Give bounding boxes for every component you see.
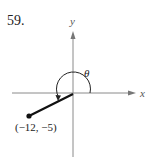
x-axis (12, 91, 136, 96)
terminal-ray (29, 94, 73, 116)
point-marker (26, 113, 31, 118)
y-axis-arrow-icon (71, 31, 76, 39)
coordinate-plane: x y θ (−12, −5) (0, 0, 153, 157)
angle-label: θ (84, 67, 90, 79)
figure: 59. x y θ (−12, −5) (0, 0, 153, 157)
y-axis-label: y (69, 15, 75, 27)
point-label: (−12, −5) (15, 121, 57, 134)
x-axis-label: x (139, 87, 145, 99)
x-axis-arrow-icon (128, 91, 136, 96)
